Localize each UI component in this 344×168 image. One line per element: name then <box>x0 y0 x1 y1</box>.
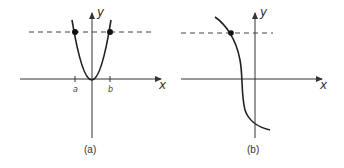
caption-b: (b) <box>247 144 259 155</box>
y-axis-label: y <box>259 5 268 19</box>
caption-a: (a) <box>84 144 96 155</box>
intersection-point-a <box>72 29 78 35</box>
figure: a b y x (a) y x (b) <box>0 0 344 168</box>
x-axis-label: x <box>158 78 167 92</box>
panel-b: y x (b) <box>181 5 328 155</box>
tick-label-a: a <box>73 85 78 94</box>
y-axis-label: y <box>96 5 105 19</box>
intersection-point <box>228 30 234 36</box>
x-axis-label: x <box>319 78 328 92</box>
decreasing-curve <box>215 17 270 130</box>
intersection-point-b <box>107 29 113 35</box>
panel-a: a b y x (a) <box>20 5 167 155</box>
tick-label-b: b <box>108 85 113 94</box>
